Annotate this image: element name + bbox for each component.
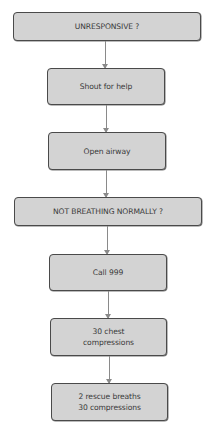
- step-label: NOT BREATHING NORMALLY ?: [53, 206, 163, 217]
- arrow-down-icon: [108, 291, 109, 318]
- step-label: Open airway: [84, 146, 131, 157]
- step-shout-for-help: Shout for help: [47, 68, 165, 105]
- step-not-breathing-normally: NOT BREATHING NORMALLY ?: [14, 197, 202, 226]
- step-label: 2 rescue breaths 30 compressions: [78, 391, 141, 413]
- step-rescue-breaths-compressions: 2 rescue breaths 30 compressions: [51, 383, 168, 421]
- step-call-999: Call 999: [49, 254, 167, 291]
- step-open-airway: Open airway: [48, 132, 166, 170]
- step-unresponsive: UNRESPONSIVE ?: [13, 12, 201, 41]
- arrow-down-icon: [107, 226, 108, 254]
- arrow-down-icon: [106, 170, 107, 197]
- step-label: Shout for help: [80, 81, 132, 92]
- arrow-down-icon: [109, 356, 110, 383]
- arrow-down-icon: [105, 41, 106, 68]
- step-label: 30 chest compressions: [83, 326, 134, 348]
- step-30-chest-compressions: 30 chest compressions: [50, 318, 167, 356]
- step-label: UNRESPONSIVE ?: [75, 21, 139, 32]
- arrow-down-icon: [106, 105, 107, 132]
- step-label: Call 999: [93, 267, 123, 278]
